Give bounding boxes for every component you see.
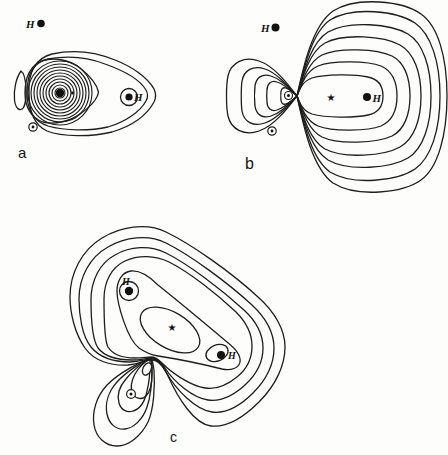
panel-a: H H a — [14, 18, 155, 161]
free-hydrogen-label: H — [260, 22, 270, 34]
panel-b: H ★ H — [227, 2, 448, 192]
node-circle-dot-marker — [285, 92, 293, 100]
hydrogen-nucleus-dot — [217, 351, 225, 359]
circle-dot-marker — [127, 390, 136, 399]
free-hydrogen-nucleus-dot — [272, 24, 280, 32]
contour-line — [14, 71, 26, 110]
free-hydrogen-nucleus-dot — [37, 20, 45, 28]
panel-b-label: b — [245, 155, 254, 172]
main-body-contours — [70, 227, 285, 427]
hydrogen-right-label: H — [227, 350, 237, 361]
bonded-hydrogen-label: H — [372, 92, 382, 104]
bonded-hydrogen-nucleus-dot — [125, 93, 132, 100]
centroid-star: ★ — [168, 322, 177, 333]
central-nucleus-dot — [56, 89, 64, 97]
centroid-star: ★ — [327, 92, 336, 103]
bonded-hydrogen-nucleus-dot — [363, 93, 371, 101]
hydrogen-nucleus-dot — [125, 287, 133, 295]
figure-canvas: H H a — [0, 0, 448, 455]
free-hydrogen-label: H — [25, 18, 35, 30]
circle-dot-marker — [29, 123, 37, 131]
panel-c-label: c — [170, 429, 177, 445]
panel-a-label: a — [18, 144, 27, 161]
hydrogen-contour-ellipse — [203, 341, 230, 364]
hydrogen-top-label: H — [121, 276, 131, 287]
panel-c: ★ H H c — [70, 227, 285, 446]
centroid-tick — [71, 92, 74, 95]
orbital-contour-figure: H H a — [0, 0, 448, 455]
bonded-hydrogen-label: H — [133, 91, 143, 103]
circle-dot-marker — [268, 127, 276, 135]
